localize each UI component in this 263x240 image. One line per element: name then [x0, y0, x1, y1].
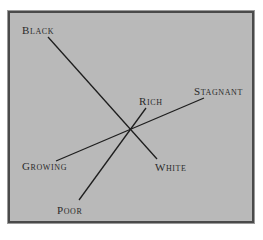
label-poor: Poor	[57, 205, 82, 216]
label-stagnant: Stagnant	[194, 86, 243, 97]
label-white: White	[155, 162, 187, 173]
label-growing: Growing	[22, 161, 67, 172]
label-rich: Rich	[139, 96, 163, 107]
label-black: Black	[22, 25, 54, 36]
poor-rich-axis-line	[79, 108, 146, 200]
